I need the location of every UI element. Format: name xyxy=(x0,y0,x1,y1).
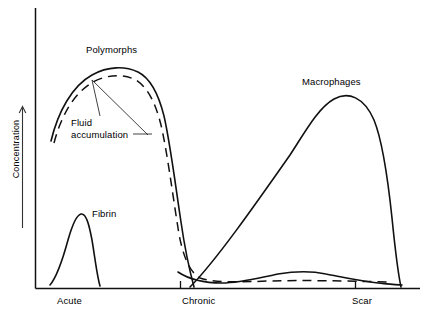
curve-residual xyxy=(178,272,402,285)
series-label-fibrin: Fibrin xyxy=(92,208,116,220)
chart-container: Polymorphs Fluidaccumulation Fibrin Macr… xyxy=(0,0,431,322)
chart-canvas xyxy=(0,0,431,322)
series-label-fluid-accumulation: Fluidaccumulation xyxy=(71,117,128,140)
curve-macrophages xyxy=(190,96,401,287)
x-axis-label-chronic: Chronic xyxy=(182,295,215,307)
leader-line-fluid-up xyxy=(92,80,100,116)
series-label-macrophages: Macrophages xyxy=(302,76,361,88)
fluid-label-line1: Fluid xyxy=(71,117,92,128)
series-label-polymorphs: Polymorphs xyxy=(86,44,137,56)
x-axis-label-scar: Scar xyxy=(352,295,372,307)
fluid-label-line2: accumulation xyxy=(71,129,128,140)
curve-fibrin xyxy=(50,214,100,286)
y-axis-label: Concentration xyxy=(11,109,21,189)
x-axis-label-acute: Acute xyxy=(57,295,82,307)
